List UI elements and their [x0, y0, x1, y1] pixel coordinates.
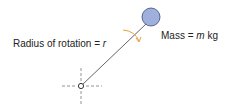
radius-label: Radius of rotation = r	[13, 38, 106, 49]
mass-ball	[142, 8, 160, 26]
pivot-point	[78, 83, 83, 88]
radius-symbol: r	[103, 38, 106, 49]
mass-label-text: Mass =	[161, 30, 196, 41]
rotation-arm	[82, 24, 146, 85]
rotation-diagram	[0, 0, 233, 112]
radius-label-text: Radius of rotation =	[13, 38, 103, 49]
mass-symbol: m	[196, 30, 204, 41]
mass-label: Mass = m kg	[161, 30, 218, 41]
mass-unit: kg	[205, 30, 218, 41]
